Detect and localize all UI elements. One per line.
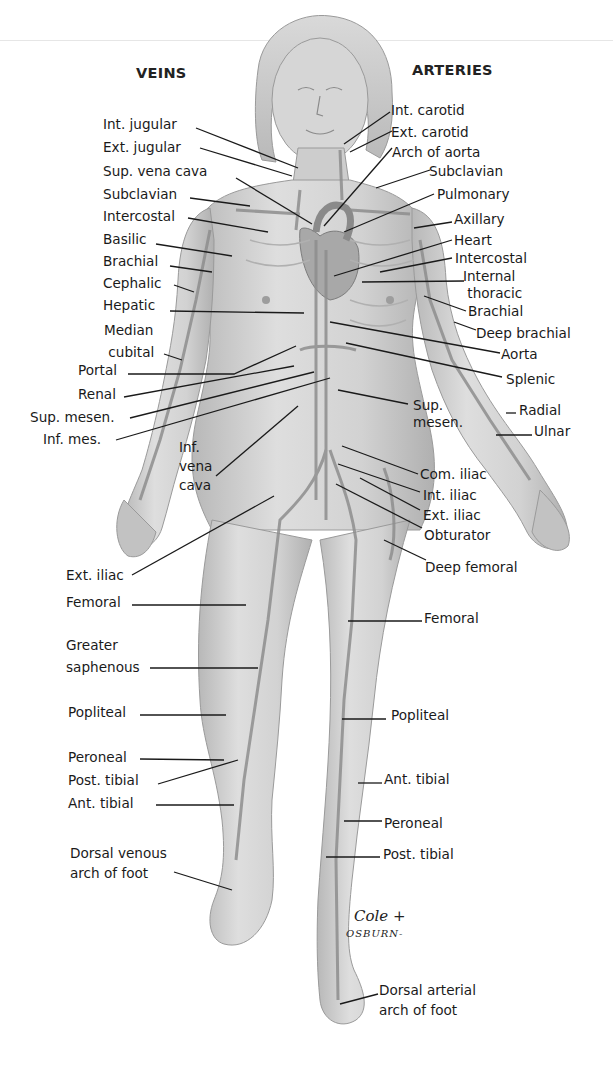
- label-artery-radial: Radial: [519, 402, 561, 418]
- label-vein-peroneal: Peroneal: [68, 749, 127, 765]
- nipple-right: [386, 296, 394, 304]
- label-vein-cephalic: Cephalic: [103, 275, 161, 291]
- label-vein-sup-mesen: Sup. mesen.: [30, 409, 115, 425]
- label-vein-ext-iliac: Ext. iliac: [66, 567, 124, 583]
- label-artery-ext-iliac: Ext. iliac: [423, 507, 481, 523]
- label-artery-arch-of-aorta: Arch of aorta: [392, 144, 480, 160]
- label-artery-aorta: Aorta: [501, 346, 538, 362]
- label-artery-splenic: Splenic: [506, 371, 555, 387]
- label-artery-obturator: Obturator: [424, 527, 490, 543]
- label-vein-brachial: Brachial: [103, 253, 158, 269]
- label-artery-peroneal: Peroneal: [384, 815, 443, 831]
- label-vein-ant-tibial: Ant. tibial: [68, 795, 134, 811]
- label-artery-internal-thoracic: Internal thoracic: [463, 268, 522, 302]
- artist-signature-line1: Cole +: [354, 907, 406, 925]
- label-artery-axillary: Axillary: [454, 211, 505, 227]
- label-vein-intercostal: Intercostal: [103, 208, 175, 224]
- label-artery-deep-brachial: Deep brachial: [476, 325, 571, 341]
- label-artery-brachial: Brachial: [468, 303, 523, 319]
- label-vein-greater-saphenous: Greater saphenous: [66, 634, 140, 678]
- veins-header: VEINS: [136, 65, 187, 81]
- label-vein-sup-vena-cava: Sup. vena cava: [103, 163, 207, 179]
- label-artery-pulmonary: Pulmonary: [437, 186, 510, 202]
- label-vein-dorsal-venous-arch: Dorsal venous arch of foot: [70, 843, 167, 883]
- artist-signature-line2: OSBURN-: [346, 928, 403, 939]
- label-artery-subclavian: Subclavian: [429, 163, 503, 179]
- label-vein-inf-vena-cava: Inf. vena cava: [179, 438, 212, 495]
- label-vein-post-tibial: Post. tibial: [68, 772, 139, 788]
- label-vein-ext-jugular: Ext. jugular: [103, 139, 181, 155]
- label-artery-sup-mesen: Sup. mesen.: [413, 397, 463, 431]
- label-vein-int-jugular: Int. jugular: [103, 116, 177, 132]
- arteries-header: ARTERIES: [412, 62, 493, 78]
- label-vein-portal: Portal: [78, 362, 117, 378]
- leg-left: [199, 520, 313, 945]
- label-artery-ant-tibial: Ant. tibial: [384, 771, 450, 787]
- label-artery-ext-carotid: Ext. carotid: [391, 124, 469, 140]
- label-vein-subclavian: Subclavian: [103, 186, 177, 202]
- label-vein-femoral: Femoral: [66, 594, 121, 610]
- label-vein-renal: Renal: [78, 386, 116, 402]
- female-body-illustration: [0, 0, 613, 1074]
- label-artery-post-tibial: Post. tibial: [383, 846, 454, 862]
- label-vein-popliteal: Popliteal: [68, 704, 126, 720]
- label-artery-ulnar: Ulnar: [534, 423, 570, 439]
- label-vein-basilic: Basilic: [103, 231, 147, 247]
- label-artery-heart: Heart: [454, 232, 492, 248]
- nipple-left: [262, 296, 270, 304]
- label-vein-median-cubital: Median cubital: [104, 319, 154, 363]
- label-artery-com-iliac: Com. iliac: [420, 466, 487, 482]
- label-artery-deep-femoral: Deep femoral: [425, 559, 518, 575]
- label-artery-int-carotid: Int. carotid: [391, 102, 465, 118]
- label-artery-intercostal: Intercostal: [455, 250, 527, 266]
- label-artery-dorsal-arterial-arch: Dorsal arterial arch of foot: [379, 980, 476, 1020]
- face: [272, 38, 368, 162]
- label-artery-popliteal: Popliteal: [391, 707, 449, 723]
- label-vein-hepatic: Hepatic: [103, 297, 155, 313]
- label-artery-int-iliac: Int. iliac: [423, 487, 477, 503]
- label-vein-inf-mes: Inf. mes.: [43, 431, 101, 447]
- label-artery-femoral: Femoral: [424, 610, 479, 626]
